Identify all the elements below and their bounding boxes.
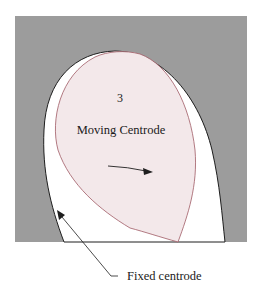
fixed-centrode-label: Fixed centrode <box>127 269 202 283</box>
moving-centrode-label: Moving Centrode <box>77 123 166 137</box>
body-number-label: 3 <box>117 91 123 105</box>
centrode-diagram: 3 Moving Centrode Fixed centrode <box>0 0 261 292</box>
